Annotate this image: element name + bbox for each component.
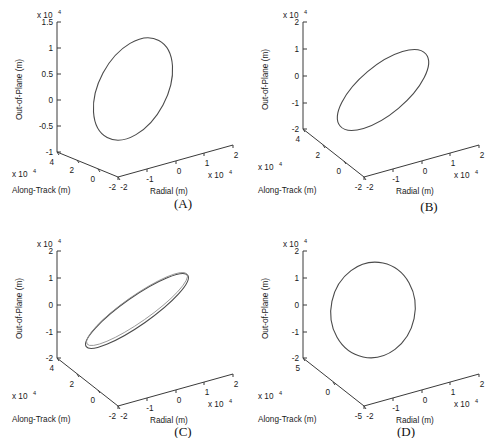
z-tick-marks xyxy=(303,22,307,129)
panel-d: x 10 4 2 1 0 -1 -2 Out-of-Plane (m) 5 0 … xyxy=(246,219,492,438)
z-tick-label: -1 xyxy=(46,148,54,157)
y-axis-exponent-sup: 4 xyxy=(279,390,282,396)
z-tick-label: -2 xyxy=(46,354,54,363)
y-axis-exponent: x 10 xyxy=(12,170,28,179)
x-axis-exponent: x 10 xyxy=(454,400,470,409)
y-axis-title: Along-Track (m) xyxy=(12,186,71,195)
z-tick-label: 0 xyxy=(48,301,53,310)
axis-line-along-track xyxy=(57,152,118,177)
z-tick-label: 2 xyxy=(294,247,299,256)
z-axis-title: Out-of-Plane (m) xyxy=(15,278,24,339)
y-tick-label: 0 xyxy=(336,167,341,176)
z-tick-label: -2 xyxy=(292,354,300,363)
y-tick-label: -2 xyxy=(109,183,117,192)
figure-panel-grid: x 10 4 1.5 1 0.5 0 -0.5 -1 Out-of-Plane … xyxy=(0,0,492,438)
z-tick-label: -1 xyxy=(292,328,300,337)
axis-line-along-track xyxy=(303,129,364,177)
x-tick-label: 2 xyxy=(480,151,485,160)
y-axis-exponent: x 10 xyxy=(258,392,274,401)
x-axis-exponent: x 10 xyxy=(208,400,224,409)
x-tick-label: 1 xyxy=(451,159,456,168)
x-axis-exponent-sup: 4 xyxy=(475,169,478,175)
x-tick-label: -1 xyxy=(146,404,154,413)
z-tick-label: 1 xyxy=(294,274,299,283)
z-tick-label: 1 xyxy=(294,45,299,54)
y-axis-exponent-sup: 4 xyxy=(279,161,282,167)
panel-b: x 10 4 2 1 0 -1 -2 Out-of-Plane (m) 4 2 … xyxy=(246,0,492,219)
x-axis-title: Radial (m) xyxy=(150,187,188,196)
z-tick-label: 0 xyxy=(294,301,299,310)
z-tick-label: 1 xyxy=(48,44,53,53)
orbit-curve-secondary xyxy=(80,263,195,354)
z-tick-marks xyxy=(303,251,307,358)
z-axis-title: Out-of-Plane (m) xyxy=(261,278,270,339)
x-tick-label: 2 xyxy=(234,151,239,160)
z-tick-marks xyxy=(57,251,61,358)
y-axis-exponent-sup: 4 xyxy=(33,390,36,396)
y-axis-title: Along-Track (m) xyxy=(258,415,317,424)
x-axis-exponent: x 10 xyxy=(454,171,470,180)
panel-a: x 10 4 1.5 1 0.5 0 -0.5 -1 Out-of-Plane … xyxy=(0,0,246,219)
z-tick-label: 0 xyxy=(294,72,299,81)
orbit-curve xyxy=(325,36,442,145)
y-axis-title: Along-Track (m) xyxy=(12,415,71,424)
y-tick-label: -5 xyxy=(355,412,363,421)
z-tick-label: -1 xyxy=(46,328,54,337)
y-tick-label: 5 xyxy=(295,364,300,373)
z-axis-exponent-sup: 4 xyxy=(304,238,307,244)
x-tick-label: 1 xyxy=(451,388,456,397)
orbit-curve xyxy=(78,264,196,358)
y-tick-label: 2 xyxy=(69,380,74,389)
y-axis-exponent: x 10 xyxy=(258,163,274,172)
y-axis-exponent-sup: 4 xyxy=(33,168,36,174)
x-axis-title: Radial (m) xyxy=(396,187,434,196)
z-tick-label: -1 xyxy=(292,99,300,108)
y-tick-label: 4 xyxy=(49,364,54,373)
z-tick-marks xyxy=(57,22,61,152)
x-tick-label: -2 xyxy=(366,412,374,421)
z-axis-exponent-sup: 4 xyxy=(58,9,61,15)
z-tick-label: 0.5 xyxy=(42,70,54,79)
x-tick-label: -2 xyxy=(120,412,128,421)
x-tick-label: -1 xyxy=(146,175,154,184)
x-tick-label: 1 xyxy=(205,159,210,168)
panel-letter: (C) xyxy=(174,424,191,438)
x-tick-label: -2 xyxy=(120,183,128,192)
y-tick-label: 0 xyxy=(90,175,95,184)
x-axis-exponent-sup: 4 xyxy=(229,398,232,404)
x-tick-label: 2 xyxy=(234,380,239,389)
z-axis-title: Out-of-Plane (m) xyxy=(15,59,24,120)
y-axis-title: Along-Track (m) xyxy=(258,186,317,195)
x-tick-label: 0 xyxy=(177,167,182,176)
z-tick-label: 0 xyxy=(48,96,53,105)
panel-letter: (B) xyxy=(420,199,437,214)
z-tick-label: 1 xyxy=(48,274,53,283)
x-tick-label: 2 xyxy=(480,380,485,389)
x-tick-label: -1 xyxy=(392,175,400,184)
z-axis-exponent-sup: 4 xyxy=(304,9,307,15)
y-tick-label: 2 xyxy=(315,151,320,160)
z-axis-title: Out-of-Plane (m) xyxy=(261,49,270,110)
x-tick-label: 1 xyxy=(205,388,210,397)
orbit-curve xyxy=(77,24,189,153)
panel-c: x 10 4 2 1 0 -1 -2 Out-of-Plane (m) 4 2 … xyxy=(0,219,246,438)
z-tick-label: 2 xyxy=(48,247,53,256)
y-axis-exponent: x 10 xyxy=(12,392,28,401)
x-tick-label: 0 xyxy=(423,396,428,405)
x-axis-exponent-sup: 4 xyxy=(475,398,478,404)
y-tick-label: -2 xyxy=(109,412,117,421)
y-tick-label: 4 xyxy=(295,135,300,144)
y-tick-label: 4 xyxy=(49,158,54,167)
x-tick-label: -1 xyxy=(392,404,400,413)
z-tick-label: 1.5 xyxy=(42,18,54,27)
z-axis-exponent-sup: 4 xyxy=(58,238,61,244)
y-tick-label: 2 xyxy=(69,166,74,175)
orbit-curve xyxy=(322,254,424,365)
panel-letter: (D) xyxy=(397,424,415,438)
x-tick-label: -2 xyxy=(366,183,374,192)
x-tick-label: 0 xyxy=(177,396,182,405)
panel-letter: (A) xyxy=(174,196,192,211)
axis-line-along-track xyxy=(57,358,118,406)
y-tick-label: -2 xyxy=(355,183,363,192)
z-tick-label: -0.5 xyxy=(39,122,54,131)
